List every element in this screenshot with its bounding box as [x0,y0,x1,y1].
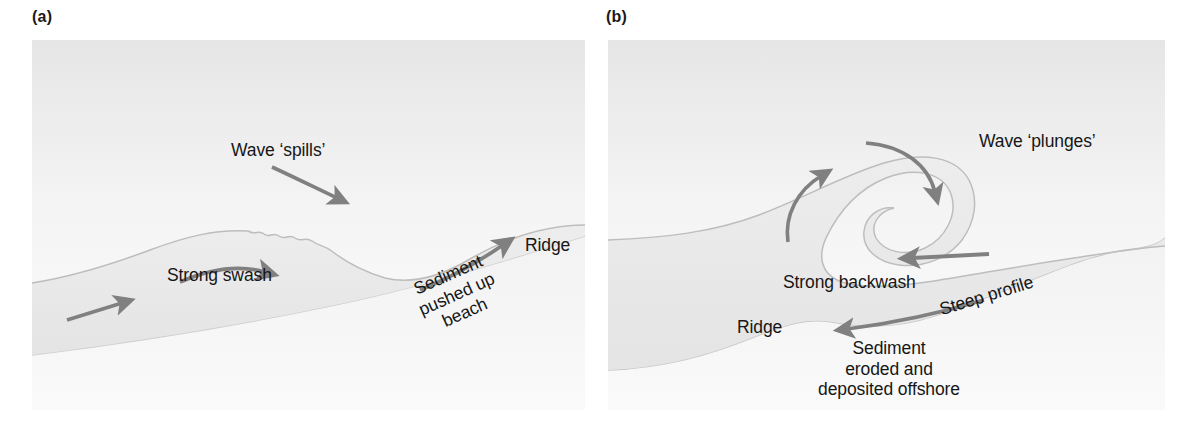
label-strong-swash-a: Strong swash [167,265,272,286]
label-ridge-b: Ridge [737,317,782,338]
wave-types-figure: (a) [0,0,1189,427]
panel-a-spilling-wave: (a) [0,0,595,427]
label-line: Sediment [784,338,994,359]
label-strong-backwash-b: Strong backwash [783,272,916,293]
label-line: eroded and [784,359,994,380]
panel-a-illustration [0,0,595,427]
label-sediment-eroded-offshore-b: Sediment eroded and deposited offshore [784,338,994,400]
label-ridge-a: Ridge [525,235,570,256]
panel-b-plunging-wave: (b) [594,0,1189,427]
label-wave-spills-a: Wave ‘spills’ [231,140,325,161]
label-line: deposited offshore [784,379,994,400]
label-wave-plunges-b: Wave ‘plunges’ [979,131,1096,152]
